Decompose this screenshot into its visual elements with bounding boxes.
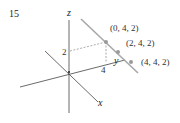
point-0-4-2 xyxy=(104,40,108,44)
point-2-4-2 xyxy=(116,50,120,54)
z-axis-label: z xyxy=(66,7,71,18)
point-label-2-4-2: (2, 4, 2) xyxy=(126,38,155,48)
z-tick-2: 2 xyxy=(62,47,67,57)
x-axis-label: x xyxy=(97,97,103,108)
problem-number: 15 xyxy=(9,8,19,19)
y-axis xyxy=(20,60,125,87)
x-axis xyxy=(45,51,98,102)
dashed-guide-z xyxy=(70,42,106,51)
point-label-4-4-2: (4, 4, 2) xyxy=(141,57,170,67)
y-axis-label: y xyxy=(113,55,119,66)
y-tick-4: 4 xyxy=(101,65,106,75)
point-label-0-4-2: (0, 4, 2) xyxy=(110,23,139,33)
point-4-4-2 xyxy=(129,60,133,64)
3d-line-diagram: 15 z y x 2 4 (0, 4, 2) (2, 4, 2) (4, 4, … xyxy=(0,0,180,123)
origin-point xyxy=(68,71,70,73)
